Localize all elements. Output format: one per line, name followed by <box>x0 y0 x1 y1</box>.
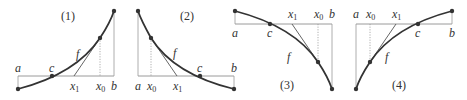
tangent-point <box>368 60 372 64</box>
point-b <box>232 87 236 91</box>
panel-4: a x0 x1 c b f (4) <box>353 7 455 92</box>
label-b: b <box>449 26 455 40</box>
label-f: f <box>287 50 292 64</box>
point-a <box>16 87 20 91</box>
label-b: b <box>329 7 335 21</box>
point-a <box>233 9 237 13</box>
label-c: c <box>49 61 55 75</box>
label-f: f <box>173 46 178 60</box>
point-b <box>112 9 116 13</box>
tangent-point <box>316 60 320 64</box>
label-x0: x0 <box>365 7 375 22</box>
point-a <box>136 9 140 13</box>
label-x1: x1 <box>287 7 297 22</box>
label-b: b <box>231 61 237 75</box>
label-x0: x0 <box>313 7 323 22</box>
label-a: a <box>353 7 359 21</box>
label-c: c <box>197 61 203 75</box>
tangent-point <box>98 36 102 40</box>
newton-method-diagram: (1) a c f x1 x0 b (2) f c b a x0 x1 <box>0 0 467 100</box>
label-a: a <box>15 61 21 75</box>
point-b <box>450 9 454 13</box>
tangent-point <box>149 36 153 40</box>
label-x0: x0 <box>95 79 105 94</box>
label-a: a <box>232 26 238 40</box>
label-x1: x1 <box>172 79 182 94</box>
label-x0: x0 <box>146 79 156 94</box>
point-b <box>330 87 334 91</box>
panel-label: (4) <box>392 78 406 92</box>
panel-1: (1) a c f x1 x0 b <box>15 9 117 94</box>
panel-2: (2) f c b a x0 x1 <box>135 9 237 94</box>
label-c: c <box>267 26 273 40</box>
label-f: f <box>385 50 390 64</box>
panel-3: a c x1 x0 b f (3) <box>232 7 335 92</box>
panel-label: (1) <box>61 9 75 23</box>
point-a <box>354 87 358 91</box>
panel-label: (3) <box>280 78 294 92</box>
panel-label: (2) <box>180 9 194 23</box>
label-a: a <box>135 79 141 93</box>
label-x1: x1 <box>69 79 79 94</box>
label-b: b <box>111 79 117 93</box>
label-x1: x1 <box>391 7 401 22</box>
label-c: c <box>415 26 421 40</box>
